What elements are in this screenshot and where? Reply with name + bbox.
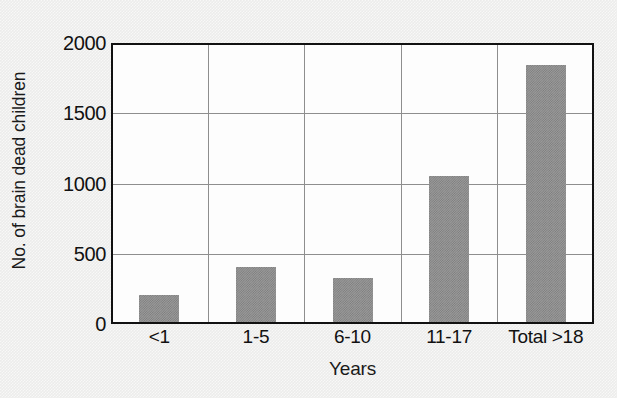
y-axis-tick-label: 0	[40, 314, 106, 334]
x-axis-tick-labels: <11-56-1011-17Total >18	[111, 327, 594, 353]
plot-area	[111, 43, 594, 324]
bar	[139, 295, 179, 322]
y-axis-tick-labels: 0500100015002000	[38, 0, 106, 398]
bar	[429, 176, 469, 322]
y-axis-tick-label: 1000	[40, 174, 106, 194]
y-axis-tick-label: 1500	[40, 103, 106, 123]
chart-figure: No. of brain dead children 0500100015002…	[0, 0, 617, 398]
bar	[333, 278, 373, 322]
x-axis-tick-label: 6-10	[304, 327, 401, 346]
x-axis-tick-label: 1-5	[208, 327, 305, 346]
x-axis-tick-label: <1	[111, 327, 208, 346]
bar	[236, 267, 276, 322]
x-axis-tick-label: 11-17	[401, 327, 498, 346]
y-axis-tick-label: 2000	[40, 33, 106, 53]
bar	[526, 65, 566, 322]
bar-series	[113, 45, 592, 322]
x-axis-title: Years	[111, 358, 594, 380]
x-axis-tick-label: Total >18	[497, 327, 594, 346]
y-axis-title-text: No. of brain dead children	[10, 71, 31, 269]
y-axis-title: No. of brain dead children	[0, 0, 40, 340]
y-axis-tick-label: 500	[40, 244, 106, 264]
